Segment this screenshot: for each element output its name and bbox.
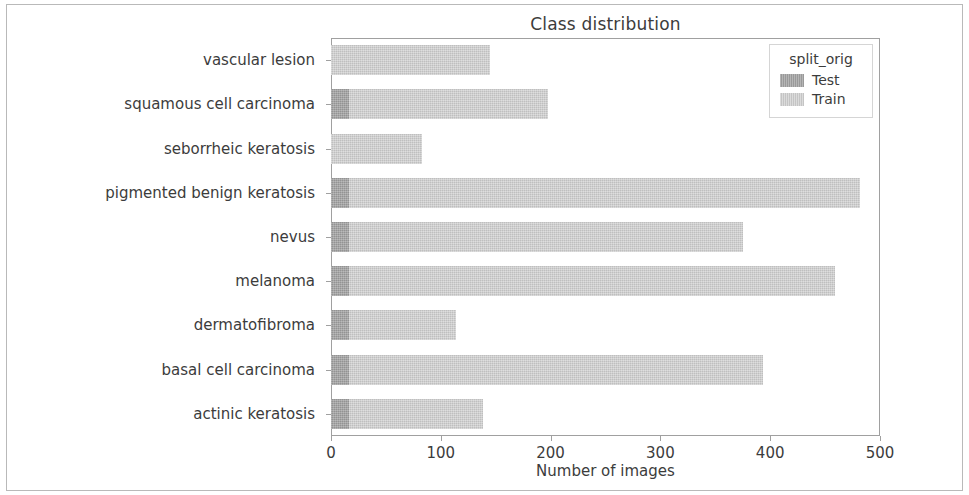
- x-tick-label: 100: [426, 444, 455, 462]
- chart-figure: Class distribution vascular lesionsquamo…: [0, 0, 969, 495]
- x-tick-label: 200: [536, 444, 565, 462]
- y-tick-label: actinic keratosis: [193, 405, 315, 423]
- y-tick-label: melanoma: [235, 272, 315, 290]
- x-tick-label: 0: [326, 444, 336, 462]
- y-tick-label: nevus: [270, 228, 315, 246]
- legend-item: Train: [780, 91, 864, 107]
- y-tick-label: dermatofibroma: [194, 316, 315, 334]
- legend-label: Test: [812, 72, 840, 88]
- legend-title: split_orig: [778, 51, 864, 67]
- y-tick-label: squamous cell carcinoma: [124, 95, 315, 113]
- x-tick-mark: [441, 436, 442, 441]
- x-tick-mark: [551, 436, 552, 441]
- x-tick-label: 300: [646, 444, 675, 462]
- x-tick-mark: [660, 436, 661, 441]
- legend-swatch-test: [780, 74, 804, 87]
- x-tick-mark: [880, 436, 881, 441]
- legend: split_orig TestTrain: [769, 44, 873, 118]
- x-tick-mark: [331, 436, 332, 441]
- legend-label: Train: [812, 91, 846, 107]
- legend-items: TestTrain: [778, 72, 864, 107]
- legend-swatch-train: [780, 93, 804, 106]
- y-tick-label: basal cell carcinoma: [162, 361, 315, 379]
- legend-item: Test: [780, 72, 864, 88]
- y-tick-label: seborrheic keratosis: [164, 140, 315, 158]
- x-tick-label: 500: [866, 444, 895, 462]
- x-tick-label: 400: [756, 444, 785, 462]
- y-tick-label: vascular lesion: [203, 51, 315, 69]
- y-tick-label: pigmented benign keratosis: [105, 184, 315, 202]
- x-axis-title: Number of images: [331, 462, 880, 480]
- chart-title: Class distribution: [331, 14, 880, 34]
- y-axis-tick-labels: vascular lesionsquamous cell carcinomase…: [0, 38, 323, 436]
- x-tick-mark: [770, 436, 771, 441]
